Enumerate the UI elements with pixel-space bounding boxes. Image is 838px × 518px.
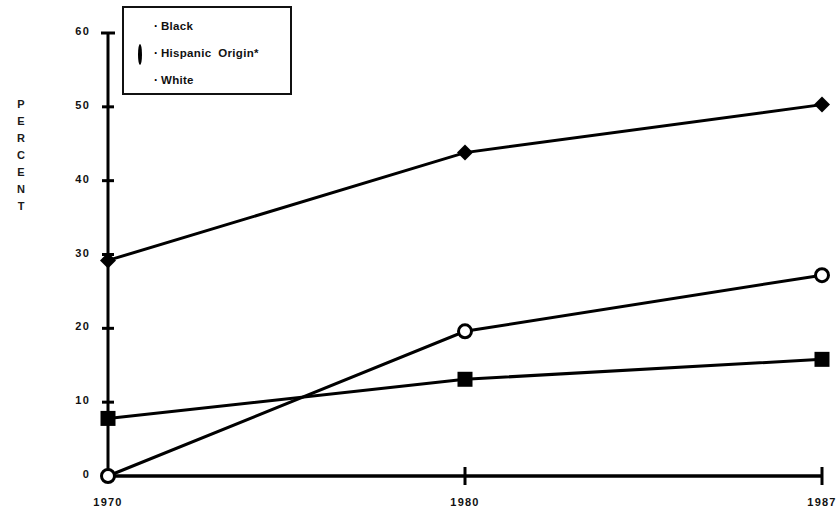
y-tick-label: 20 — [50, 320, 90, 332]
y-axis-title-letter: R — [8, 130, 34, 147]
data-point — [815, 352, 830, 367]
y-tick-label: 0 — [50, 468, 90, 480]
y-tick-label: 30 — [50, 247, 90, 259]
series-line-2 — [108, 359, 822, 418]
filled-square-icon — [138, 73, 152, 87]
y-axis-title-letter: N — [8, 181, 34, 198]
y-axis-title-letter: E — [8, 164, 34, 181]
y-tick-label: 60 — [50, 25, 90, 37]
data-point — [816, 269, 829, 282]
open-circle-icon — [138, 46, 152, 60]
data-point — [459, 325, 472, 338]
y-axis-title-letter: P — [8, 96, 34, 113]
data-point — [814, 97, 830, 113]
y-axis-title-letter: C — [8, 147, 34, 164]
series-line-0 — [108, 105, 822, 261]
filled-diamond-icon — [138, 19, 152, 33]
legend-label-white: White — [161, 74, 194, 86]
y-axis-title: P E R C E N T — [8, 96, 34, 215]
y-tick-label: 50 — [50, 99, 90, 111]
legend-separator-dot: · — [154, 48, 158, 58]
legend-label-black: Black — [161, 20, 193, 32]
x-tick-label: 1970 — [73, 496, 143, 508]
y-tick-label: 40 — [50, 173, 90, 185]
data-point — [457, 145, 473, 161]
legend-item-black: · Black — [138, 17, 193, 35]
x-tick-label: 1987 — [787, 496, 838, 508]
legend-item-hispanic-origin: · Hispanic Origin* — [138, 44, 259, 62]
data-point — [458, 372, 473, 387]
x-tick-label: 1980 — [430, 496, 500, 508]
legend-separator-dot: · — [154, 75, 158, 85]
y-axis-title-letter: E — [8, 113, 34, 130]
data-point — [101, 411, 116, 426]
legend-item-white: · White — [138, 71, 194, 89]
legend-separator-dot: · — [154, 21, 158, 31]
legend-label-hispanic-origin: Hispanic Origin* — [161, 47, 259, 59]
chart-legend: · Black · Hispanic Origin* · White — [122, 6, 292, 95]
y-tick-label: 10 — [50, 394, 90, 406]
y-axis-title-letter: T — [8, 198, 34, 215]
percent-by-race-line-chart: P E R C E N T · Black · Hispanic Origin* — [0, 0, 838, 518]
data-point — [102, 470, 115, 483]
